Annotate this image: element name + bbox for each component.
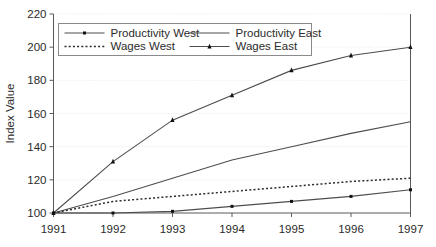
legend-label-productivity-east: Productivity East <box>236 27 322 39</box>
data-series-group <box>54 47 411 213</box>
data-point-marker <box>231 205 234 208</box>
chart-legend: Productivity WestProductivity EastWages … <box>59 24 322 56</box>
data-point-marker <box>290 200 293 203</box>
y-tick-label: 180 <box>27 74 46 86</box>
data-point-marker <box>350 195 353 198</box>
y-tick-label: 140 <box>27 141 46 153</box>
x-tick-label: 1997 <box>398 223 424 235</box>
y-tick-label: 100 <box>27 207 46 219</box>
x-tick-label: 1992 <box>100 223 126 235</box>
series-path-productivity-west <box>54 190 411 213</box>
legend-marker-productivity-west <box>83 32 86 35</box>
x-tick-label: 1996 <box>338 223 364 235</box>
y-axis-title: Index Value <box>4 84 16 144</box>
data-point-marker <box>171 210 174 213</box>
y-axis-ticks-group: 100120140160180200220 <box>27 8 53 219</box>
y-tick-label: 160 <box>27 108 46 120</box>
y-tick-label: 120 <box>27 174 46 186</box>
data-point-marker <box>409 188 412 191</box>
y-tick-label: 220 <box>27 8 46 20</box>
data-point-marker <box>408 44 412 49</box>
data-markers-group <box>51 44 412 215</box>
series-path-wages-east <box>54 47 411 213</box>
line-chart-figure: 100120140160180200220 199119921993199419… <box>0 0 436 247</box>
y-tick-label: 200 <box>27 41 46 53</box>
data-point-marker <box>112 212 115 215</box>
x-tick-label: 1993 <box>160 223 186 235</box>
x-axis-ticks-group: 1991199219931994199519961997 <box>41 213 424 235</box>
legend-label-wages-east: Wages East <box>236 40 298 52</box>
x-tick-label: 1994 <box>219 223 245 235</box>
chart-canvas: 100120140160180200220 199119921993199419… <box>0 0 436 247</box>
legend-label-productivity-west: Productivity West <box>111 27 200 39</box>
x-tick-label: 1991 <box>41 223 67 235</box>
x-tick-label: 1995 <box>279 223 305 235</box>
legend-label-wages-west: Wages West <box>111 40 176 52</box>
